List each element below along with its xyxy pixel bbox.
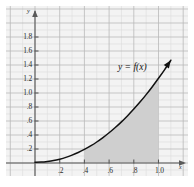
x-tick-label: 1.0 [153,166,167,175]
y-tick-label: .2 [11,144,32,153]
x-axis-name-label: x [179,164,182,170]
y-tick-label: 1.4 [11,60,32,69]
y-axis-name-label: y [27,7,30,14]
plot-area: .2.4.6.81.0 .2.4.6.81.01.21.41.61.8 x y … [6,6,188,176]
function-equation-label: y = f(x) [118,62,147,72]
x-tick-label: .2 [54,166,68,175]
y-tick-label: 1.2 [11,74,32,83]
y-tick-label: .6 [11,116,32,125]
y-tick-label: 1.6 [11,46,32,55]
curve-arrowhead-icon [164,60,171,68]
x-tick-label: .4 [78,166,92,175]
y-tick-label: 1.0 [11,88,32,97]
figure-container: .2.4.6.81.0 .2.4.6.81.01.21.41.61.8 x y … [0,0,194,187]
y-tick-label: 1.8 [11,32,32,41]
x-tick-label: .8 [128,166,142,175]
y-axis-arrowhead-icon [32,10,38,17]
x-tick-label: .6 [103,166,117,175]
y-tick-label: .8 [11,102,32,111]
y-tick-label: .4 [11,130,32,139]
graph-canvas [6,6,188,176]
